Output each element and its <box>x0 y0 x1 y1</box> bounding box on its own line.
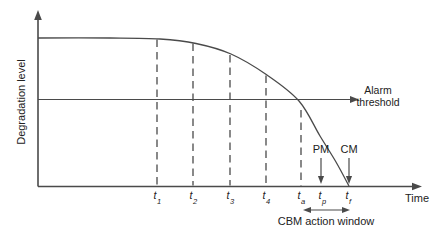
tick-t2: t2 <box>189 189 196 201</box>
tick-tp: tp <box>318 189 325 201</box>
cbm-window-arrowhead-left <box>303 207 311 213</box>
pm-arrowhead <box>318 176 324 184</box>
alarm-threshold-label: Alarm threshold <box>354 85 402 108</box>
x-axis-arrowhead <box>412 183 422 191</box>
cbm-action-window-label: CBM action window <box>278 215 375 227</box>
x-axis-label: Time <box>405 192 429 204</box>
y-axis-label: Degradation level <box>15 59 27 145</box>
tick-tf: tf <box>345 189 350 201</box>
tick-ta: ta <box>297 189 304 201</box>
tick-t4: t4 <box>262 189 269 201</box>
tick-t1: t1 <box>153 189 160 201</box>
pm-label: PM <box>313 143 330 155</box>
tick-t3: t3 <box>226 189 233 201</box>
cm-label: CM <box>340 143 357 155</box>
y-axis-arrowhead <box>34 10 42 20</box>
degradation-cbm-diagram: Degradation level Time Alarm threshold C… <box>0 0 440 236</box>
cbm-window-arrowhead-right <box>342 207 350 213</box>
diagram-canvas <box>0 0 440 236</box>
